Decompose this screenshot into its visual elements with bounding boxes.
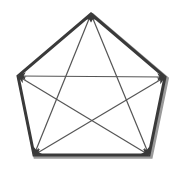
pentagon-diagram: [0, 0, 181, 169]
pentagon-diagram-svg: [0, 0, 181, 169]
